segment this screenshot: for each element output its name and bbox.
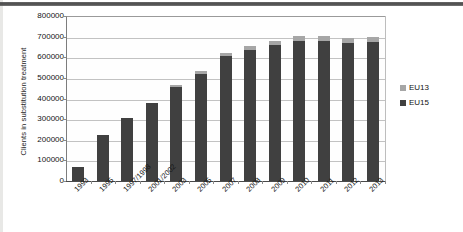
x-tick-mark xyxy=(311,181,312,184)
x-tick-mark xyxy=(213,181,214,184)
legend-item-eu15[interactable]: EU15 xyxy=(400,99,429,107)
x-tick-mark xyxy=(336,181,337,184)
x-tick-mark xyxy=(164,181,165,184)
x-axis-label-2009: 2009 xyxy=(270,176,287,193)
legend-label-eu15: EU15 xyxy=(409,99,429,107)
legend-item-eu13[interactable]: EU13 xyxy=(400,84,429,92)
x-axis-label-2007: 2007 xyxy=(221,176,238,193)
x-tick-mark xyxy=(262,181,263,184)
x-axis-label-2011: 2011 xyxy=(319,177,336,194)
x-tick-mark xyxy=(360,181,361,184)
x-tick-mark xyxy=(115,181,116,184)
x-tick-mark xyxy=(287,181,288,184)
x-axis-label-1993: 1993 xyxy=(73,176,90,193)
x-axis-tick-labels: 199319951997/19982001/200220032005200720… xyxy=(0,0,463,232)
x-axis-label-2003: 2003 xyxy=(171,176,188,193)
x-tick-mark xyxy=(189,181,190,184)
x-tick-mark xyxy=(140,181,141,184)
x-axis-label-2005: 2005 xyxy=(196,176,213,193)
x-tick-mark xyxy=(91,181,92,184)
legend-swatch-eu13 xyxy=(400,85,406,91)
x-axis-label-2013: 2013 xyxy=(368,176,385,193)
x-axis-label-2012: 2012 xyxy=(343,176,360,193)
legend: EU13 EU15 xyxy=(400,84,429,114)
x-tick-mark xyxy=(385,181,386,184)
x-axis-label-2008: 2008 xyxy=(245,176,262,193)
bar-chart: Clients in substitution treatment 800000… xyxy=(0,0,463,232)
legend-swatch-eu15 xyxy=(400,100,406,106)
legend-label-eu13: EU13 xyxy=(409,84,429,92)
x-tick-mark xyxy=(238,181,239,184)
x-axis-label-2010: 2010 xyxy=(294,176,311,193)
x-axis-label-1995: 1995 xyxy=(98,176,115,193)
